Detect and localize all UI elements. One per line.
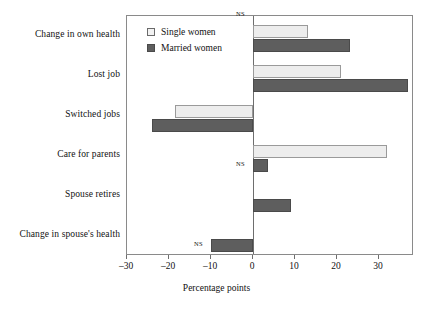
plot-area: Single women Married women NSNSNS xyxy=(126,15,413,255)
x-axis-title: Percentage points xyxy=(0,283,433,293)
category-label: Change in spouse's health xyxy=(19,229,120,240)
x-axis-tick xyxy=(294,255,295,259)
legend-swatch-single-women-icon xyxy=(147,28,155,36)
bar-single-women xyxy=(253,145,387,158)
plot-inner: Single women Married women NSNSNS xyxy=(127,16,412,254)
x-axis-tick xyxy=(126,255,127,259)
bar-married-women xyxy=(211,239,253,252)
category-label: Switched jobs xyxy=(65,109,120,120)
legend-label-single-women: Single women xyxy=(161,24,216,40)
x-axis-tick-label: 20 xyxy=(316,261,356,271)
legend: Single women Married women xyxy=(147,24,222,56)
x-axis-tick-label: 0 xyxy=(232,261,272,271)
bar-single-women xyxy=(253,25,308,38)
zero-axis-line xyxy=(253,16,254,254)
legend-item-single-women: Single women xyxy=(147,24,222,40)
ns-annotation: NS xyxy=(236,10,245,17)
x-axis-tick xyxy=(168,255,169,259)
category-label: Lost job xyxy=(88,69,120,80)
x-axis-tick-label: –30 xyxy=(106,261,146,271)
category-label: Care for parents xyxy=(57,149,120,160)
legend-label-married-women: Married women xyxy=(161,40,222,56)
x-axis-tick-label: 30 xyxy=(358,261,398,271)
x-axis-tick-label: –10 xyxy=(190,261,230,271)
bar-chart: Change in own healthLost jobSwitched job… xyxy=(0,0,433,311)
category-label: Spouse retires xyxy=(65,189,120,200)
category-label-column: Change in own healthLost jobSwitched job… xyxy=(0,0,120,311)
x-axis-tick xyxy=(378,255,379,259)
ns-annotation: NS xyxy=(236,160,245,167)
x-axis-tick-label: 10 xyxy=(274,261,314,271)
x-axis-tick xyxy=(210,255,211,259)
bar-married-women xyxy=(253,159,268,172)
category-label: Change in own health xyxy=(35,29,120,40)
legend-swatch-married-women-icon xyxy=(147,44,155,52)
bar-married-women xyxy=(253,39,350,52)
x-axis-tick xyxy=(336,255,337,259)
bar-married-women xyxy=(253,199,291,212)
bar-single-women xyxy=(253,65,341,78)
x-axis-tick-label: –20 xyxy=(148,261,188,271)
x-axis-tick xyxy=(252,255,253,259)
ns-annotation: NS xyxy=(194,240,203,247)
bar-single-women xyxy=(175,105,253,118)
bar-married-women xyxy=(253,79,408,92)
bar-married-women xyxy=(152,119,253,132)
legend-item-married-women: Married women xyxy=(147,40,222,56)
